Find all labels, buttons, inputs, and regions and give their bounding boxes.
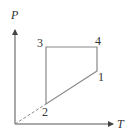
x-axis-label: T [117,117,125,131]
p-t-diagram: P T 1 2 3 4 [0,0,126,138]
point-label-1: 1 [98,70,104,84]
point-label-4: 4 [95,34,101,48]
y-axis-label: P [10,8,19,22]
y-axis: P [10,8,19,124]
point-label-2: 2 [42,105,48,119]
cycle-path [46,47,97,104]
x-axis: T [15,117,125,131]
point-label-3: 3 [37,36,43,50]
